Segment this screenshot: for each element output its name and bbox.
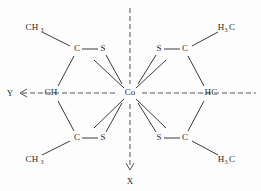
bond-ul-methyl-to-carbon [42, 32, 70, 46]
upper-right-carbon-label: C [182, 43, 188, 53]
bond-ur-carbon-to-methyl [192, 32, 218, 46]
bond-ur-carbon-to-hc [188, 56, 204, 86]
equatorial-right-hc-label: HC [205, 87, 218, 97]
lower-left-methyl-label: CH [26, 154, 39, 164]
lower-right-methyl-c-label: C [229, 154, 235, 164]
upper-right-methyl-c-label: C [229, 22, 235, 32]
chemical-structure-diagram: Co CH 3 C S S C H 3 C CH 3 C S S C H 3 C… [0, 0, 261, 191]
lower-left-methyl-subscript: 3 [40, 159, 43, 165]
bond-center-to-upper-left-c [94, 60, 124, 88]
upper-left-methyl-label: CH [26, 22, 39, 32]
equatorial-left-ch-label: CH [45, 87, 58, 97]
upper-left-sulfur-label: S [100, 43, 105, 53]
bond-center-to-upper-right-c [136, 60, 166, 88]
bond-lr-center-to-sulfur [138, 103, 156, 132]
lower-left-carbon-label: C [74, 132, 80, 142]
upper-right-methyl-subscript: 3 [224, 27, 227, 33]
bond-lr-carbon-to-hc [188, 101, 204, 131]
bond-ur-center-to-sulfur [138, 55, 156, 84]
lower-right-methyl-subscript: 3 [224, 159, 227, 165]
upper-right-sulfur-label: S [156, 43, 161, 53]
y-axis-label: Y [7, 88, 14, 98]
upper-left-methyl-subscript: 3 [40, 27, 43, 33]
bond-ll-sulfur-to-center [106, 103, 122, 132]
lower-left-sulfur-label: S [100, 132, 105, 142]
bond-ll-carbon-to-ch [58, 101, 74, 131]
bond-center-to-lower-left-c [94, 99, 124, 128]
x-axis-label: X [127, 176, 134, 186]
bond-ul-carbon-to-ch [58, 56, 74, 86]
center-metal-atom-label: Co [125, 87, 136, 97]
structure-canvas: Co CH 3 C S S C H 3 C CH 3 C S S C H 3 C… [0, 0, 261, 191]
lower-right-carbon-label: C [182, 132, 188, 142]
upper-left-carbon-label: C [74, 43, 80, 53]
bond-lr-carbon-to-methyl [192, 141, 218, 155]
bond-ul-sulfur-to-center [106, 55, 122, 84]
lower-right-sulfur-label: S [156, 132, 161, 142]
bond-ll-methyl-to-carbon [42, 141, 70, 155]
